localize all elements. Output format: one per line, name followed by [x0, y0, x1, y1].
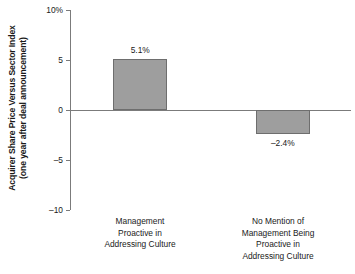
y-axis-label-text: Acquirer Share Price Versus Sector Index… [7, 25, 29, 191]
y-tick-neg5: –5 [70, 160, 71, 161]
y-tick-label: –5 [54, 156, 63, 164]
bar-value-label-1: –2.4% [243, 139, 323, 147]
bar-management-proactive[interactable] [113, 59, 167, 110]
y-tick-label: 0 [58, 106, 63, 114]
y-axis-label: Acquirer Share Price Versus Sector Index… [0, 0, 36, 215]
x-category-line: Addressing Culture [84, 239, 196, 251]
x-category-line: Proactive in [84, 228, 196, 240]
x-category-line: Management [84, 216, 196, 228]
y-tick-mark [66, 210, 70, 211]
x-category-label-1: No Mention of Management Being Proactive… [205, 216, 351, 262]
x-category-line: No Mention of [205, 216, 351, 228]
y-axis-label-line-2: (one year after deal announcement) [18, 25, 29, 191]
y-tick-0: 0 [70, 110, 71, 111]
y-tick-label: 10% [46, 6, 63, 14]
y-tick-label: 5 [58, 56, 63, 64]
bar-value-label-0: 5.1% [100, 46, 180, 54]
y-tick-mark [66, 60, 70, 61]
y-tick-5: 5 [70, 60, 71, 61]
y-tick-mark [66, 110, 70, 111]
y-tick-neg10: –10 [70, 210, 71, 211]
x-category-line: Proactive in [205, 239, 351, 251]
chart-plot-area: 10% 5 0 –5 –10 5.1% –2.4% [70, 10, 351, 210]
x-category-label-0: Management Proactive in Addressing Cultu… [84, 216, 196, 251]
y-tick-mark [66, 10, 70, 11]
y-tick-mark [66, 160, 70, 161]
x-category-line: Management Being [205, 228, 351, 240]
y-tick-10: 10% [70, 10, 71, 11]
y-tick-label: –10 [49, 206, 63, 214]
bar-no-mention[interactable] [256, 110, 310, 134]
y-axis-label-line-1: Acquirer Share Price Versus Sector Index [7, 25, 18, 191]
x-category-line: Addressing Culture [205, 251, 351, 263]
